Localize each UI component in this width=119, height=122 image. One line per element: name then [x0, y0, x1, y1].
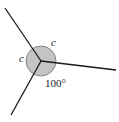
- angle-label-100: 100°: [45, 77, 66, 89]
- angle-label-c-top: c: [51, 36, 56, 48]
- ray-lower-left: [11, 61, 41, 115]
- angle-label-c-left: c: [19, 52, 24, 64]
- angle-diagram: c c 100°: [0, 0, 119, 122]
